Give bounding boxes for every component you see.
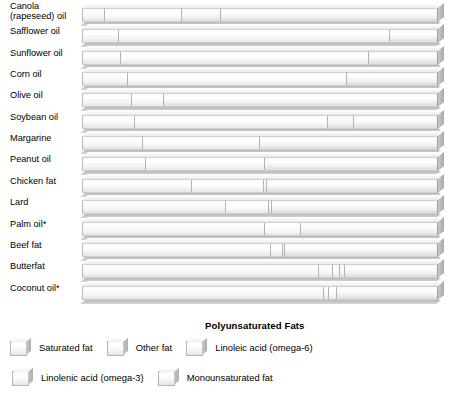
bar-segment-sat [82,136,143,150]
stacked-bar [82,222,438,236]
bar-segment-la [121,51,368,65]
row-label: Olive oil [10,90,78,100]
stacked-bar [82,243,438,257]
bar-right-face [438,110,444,129]
chart-row: Beef fat [0,240,462,261]
stacked-bar [82,264,438,278]
bar-front-face [82,179,438,193]
bar-right-face [438,88,444,107]
chart-row: Corn oil [0,69,462,90]
chart-row: Olive oil [0,90,462,111]
stacked-bar [82,136,438,150]
bar-segment-la [226,200,269,214]
bar-right-face [438,3,444,22]
bar-segment-ala [328,115,355,129]
bar-segment-sat [82,157,146,171]
row-label: Soybean oil [10,112,78,122]
bar-segment-sat [82,93,132,107]
bar-segment-la [146,157,265,171]
bar-front-face [82,51,438,65]
legend-item-la[interactable]: Linoleic acid (omega-6) [186,338,312,358]
bar-right-face [438,67,444,86]
legend-label: Saturated fat [39,338,93,358]
chart-row: Butterfat [0,261,462,282]
bar-right-face [438,259,444,278]
bar-segment-la [265,222,301,236]
legend-item-mono[interactable]: Monounsaturated fat [158,368,273,388]
bar-front-face [82,157,438,171]
legend-swatch-mono-icon [158,371,175,386]
row-label: Canola (rapeseed) oil [10,1,78,22]
fat-composition-chart: Canola (rapeseed) oilSafflower oilSunflo… [0,0,462,402]
bar-segment-sat [82,115,135,129]
bar-segment-mono [272,200,438,214]
bar-front-face [82,264,438,278]
legend-label: Monounsaturated fat [187,368,273,388]
bar-segment-mono [301,222,438,236]
row-label: Sunflower oil [10,48,78,58]
bar-right-face [438,24,444,43]
legend-item-sat[interactable]: Saturated fat [10,338,93,358]
bar-segment-mono [390,29,438,43]
bar-segment-mono [265,157,438,171]
bar-front-face [82,243,438,257]
legend-swatch-sat-icon [10,341,27,356]
bar-segment-mono [267,179,438,193]
legend-label: Linolenic acid (omega-3) [41,368,144,388]
chart-row: Palm oil* [0,219,462,240]
bar-segment-mono [369,51,438,65]
bar-segment-mono [354,115,438,129]
chart-row: Chicken fat [0,176,462,197]
legend-swatch-la-icon [186,341,203,356]
row-label: Lard [10,197,78,207]
bar-front-face [82,286,438,300]
bar-segment-la [128,72,347,86]
bar-shadow [80,300,441,304]
bar-segment-la [333,264,340,278]
stacked-bar [82,29,438,43]
bar-right-face [438,174,444,193]
legend-row: Saturated fatOther fatLinoleic acid (ome… [10,338,462,366]
bar-segment-sat [82,51,121,65]
bar-segment-mono [337,286,438,300]
bar-segment-sat [82,200,226,214]
bar-right-face [438,216,444,235]
chart-row: Canola (rapeseed) oil [0,5,462,26]
bar-segment-sat [82,243,271,257]
chart-row: Coconut oil* [0,283,462,304]
row-label: Safflower oil [10,26,78,36]
stacked-bar [82,115,438,129]
stacked-bar [82,286,438,300]
bar-segment-mono [347,72,438,86]
bar-segment-la [329,286,336,300]
row-label: Chicken fat [10,176,78,186]
legend-label: Other fat [136,338,172,358]
bar-segment-mono [260,136,438,150]
bar-segment-la [192,179,263,193]
row-label: Coconut oil* [10,283,78,293]
row-label: Margarine [10,133,78,143]
bar-segment-sat [82,222,265,236]
stacked-bar [82,72,438,86]
bar-segment-la [132,93,164,107]
chart-row: Margarine [0,133,462,154]
chart-row: Sunflower oil [0,48,462,69]
bar-segment-sat [82,29,119,43]
legend-item-other[interactable]: Other fat [107,338,172,358]
bar-segment-ala [182,8,221,22]
bar-front-face [82,8,438,22]
chart-row: Safflower oil [0,26,462,47]
legend-swatch-other-icon [107,341,124,356]
stacked-bar [82,51,438,65]
chart-row: Soybean oil [0,112,462,133]
bar-segment-mono [285,243,438,257]
chart-row: Lard [0,197,462,218]
stacked-bar [82,93,438,107]
legend-label: Linoleic acid (omega-6) [215,338,312,358]
bar-front-face [82,222,438,236]
bar-right-face [438,152,444,171]
row-label: Corn oil [10,69,78,79]
bar-segment-sat [82,8,105,22]
legend-item-ala[interactable]: Linolenic acid (omega-3) [12,368,144,388]
row-label: Beef fat [10,240,78,250]
